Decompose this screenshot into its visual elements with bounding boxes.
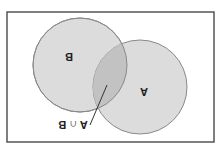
intersection-label: A ∩ B xyxy=(58,119,88,131)
set-b-label: B xyxy=(65,51,73,63)
venn-diagram: B A A ∩ B xyxy=(0,0,222,151)
set-a-label: A xyxy=(140,86,148,98)
